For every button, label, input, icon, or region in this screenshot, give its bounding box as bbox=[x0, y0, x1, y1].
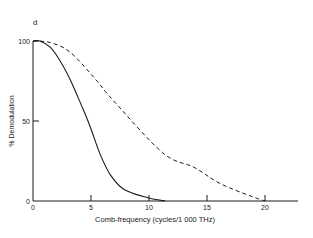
x-tick-label: 15 bbox=[203, 204, 211, 211]
x-ticks: 05101520 bbox=[31, 195, 269, 211]
y-tick-label: 0 bbox=[26, 198, 30, 205]
panel-label: d bbox=[33, 18, 37, 27]
x-tick-label: 5 bbox=[89, 204, 93, 211]
x-tick-label: 20 bbox=[261, 204, 269, 211]
y-axis-label: % Demodulation bbox=[8, 95, 15, 146]
y-tick-label: 50 bbox=[22, 118, 30, 125]
dashed-curve bbox=[33, 41, 265, 201]
y-ticks: 050100 bbox=[18, 38, 39, 205]
demodulation-chart: d 050100 05101520 % Demodulation Comb-fr… bbox=[0, 0, 313, 238]
y-tick-label: 100 bbox=[18, 38, 30, 45]
solid-curve bbox=[33, 41, 165, 201]
x-tick-label: 10 bbox=[145, 204, 153, 211]
x-axis-label: Comb-frequency (cycles/1 000 THz) bbox=[95, 215, 215, 224]
x-tick-label: 0 bbox=[31, 204, 35, 211]
